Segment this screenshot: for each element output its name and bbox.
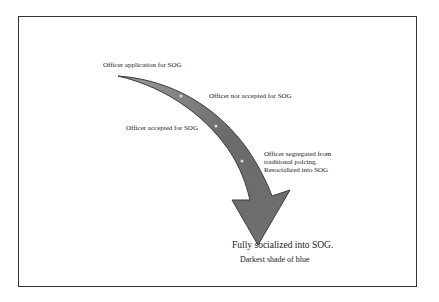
label-segregated-line-1: Officer segregated from xyxy=(264,150,331,158)
label-segregated-line-2: traditional polcing. xyxy=(264,158,331,166)
label-segregated: Officer segregated from traditional polc… xyxy=(264,150,331,174)
label-accepted: Officer accepted for SOG xyxy=(126,124,198,132)
socialization-arrow-icon xyxy=(0,0,439,302)
label-not-accepted: Officer not accepted for SOG xyxy=(209,92,292,100)
label-final-1: Fully socialized into SOG. xyxy=(232,240,333,251)
label-segregated-line-3: Resocialized into SOG xyxy=(264,166,331,174)
label-final-2: Darkest shade of blue xyxy=(240,255,310,264)
label-application: Officer application for SOG xyxy=(103,61,182,69)
